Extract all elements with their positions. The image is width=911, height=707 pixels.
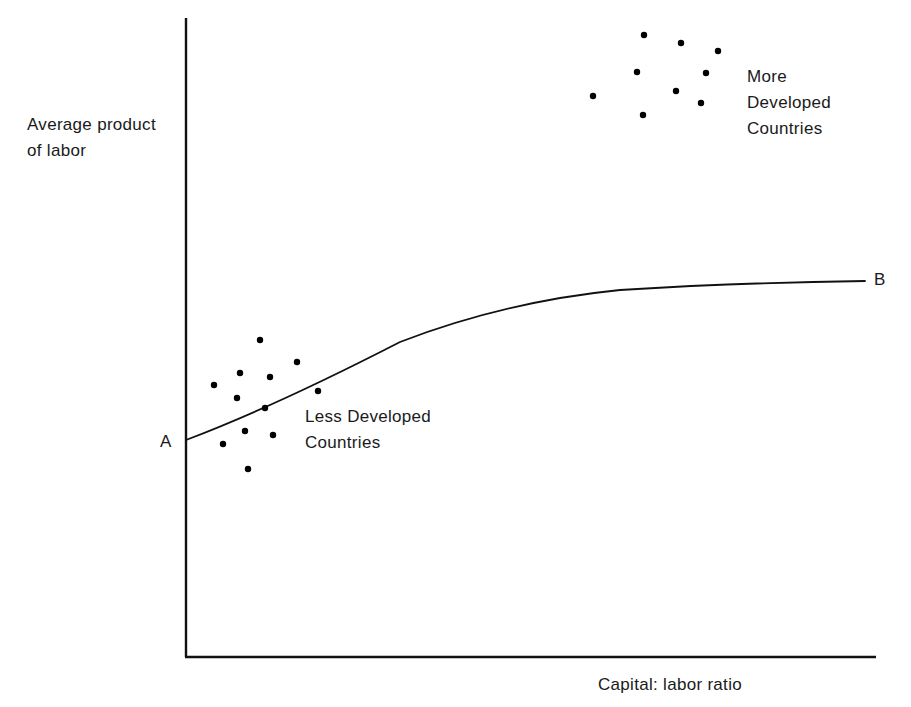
mdc-data-point [678,40,684,46]
production-function-curve [186,281,865,440]
ldc-data-point [294,359,300,365]
mdc-data-point [673,88,679,94]
mdc-data-point [640,112,646,118]
ldc-data-point [211,382,217,388]
mdc-data-point [715,48,721,54]
mdc-data-point [698,100,704,106]
ldc-data-point [315,388,321,394]
ldc-data-point [267,374,273,380]
ldc-data-point [245,466,251,472]
ldc-data-point [220,441,226,447]
mdc-data-point [634,69,640,75]
x-axis-label: Capital: labor ratio [598,672,742,698]
mdc-data-point [703,70,709,76]
less-developed-countries-label: Less Developed Countries [305,404,431,456]
ldc-data-point [262,405,268,411]
mdc-data-point [641,32,647,38]
ldc-data-point [234,395,240,401]
y-axis-label: Average product of labor [27,112,156,164]
mdc-data-point [590,93,596,99]
ldc-data-point [270,432,276,438]
more-developed-countries-label: More Developed Countries [747,64,831,142]
curve-end-label-b: B [874,267,886,293]
scatter-figure: 50. Brush Average product of labor Capit… [0,0,911,707]
ldc-data-point [237,370,243,376]
mdc-point-group [590,32,721,118]
curve-start-label-a: A [160,429,172,455]
ldc-data-point [242,428,248,434]
ldc-data-point [257,337,263,343]
